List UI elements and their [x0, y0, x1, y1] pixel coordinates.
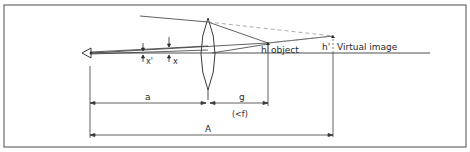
label-A: A [205, 124, 212, 134]
diagram-frame [4, 5, 466, 147]
label-g-note: (<f) [232, 110, 248, 119]
dashed-construction-lines [208, 22, 333, 43]
optical-diagram: x' x h object h' Virtual image a g (<f) … [0, 0, 470, 152]
label-x: x [173, 57, 178, 66]
eye-icon [82, 48, 92, 58]
label-image-h: h' [322, 42, 330, 52]
label-g: g [239, 92, 245, 102]
label-object-h: h [261, 45, 267, 55]
label-virtual-image: Virtual image [337, 42, 398, 52]
convex-lens [201, 18, 215, 90]
x-marker [168, 37, 171, 62]
label-x-prime: x' [146, 57, 153, 66]
label-object: object [271, 45, 299, 55]
dimension-A [90, 134, 333, 137]
virtual-image-arrow [331, 35, 335, 53]
dimension-extension-lines [90, 53, 333, 138]
label-a: a [145, 92, 151, 102]
